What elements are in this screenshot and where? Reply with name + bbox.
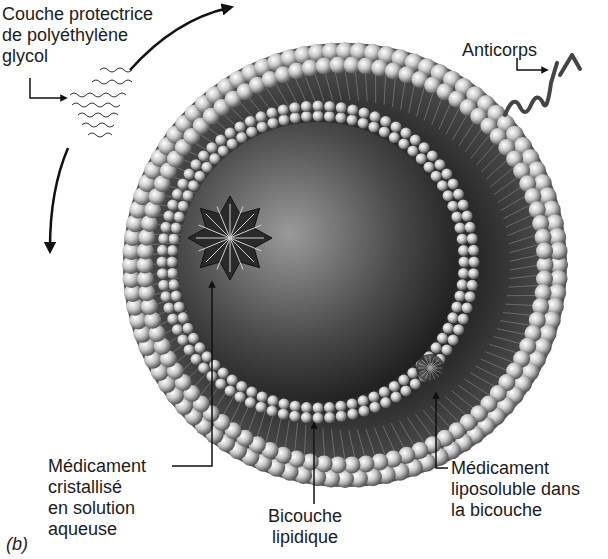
crystal-drug-icon xyxy=(188,196,272,280)
peg-chains-icon xyxy=(70,68,132,137)
label-antibody: Anticorps xyxy=(462,40,537,61)
curved-arrow-left xyxy=(50,148,68,248)
liposoluble-drug-icon xyxy=(416,354,444,382)
label-peg-coating: Couche protectricede polyéthylèneglycol xyxy=(2,4,153,67)
label-bilayer: Bicouchelipidique xyxy=(268,506,342,548)
liposome-diagram: Couche protectricede polyéthylèneglycol … xyxy=(0,0,608,559)
panel-label: (b) xyxy=(6,534,28,555)
label-crystal-drug: Médicamentcristalliséen solutionaqueuse xyxy=(48,456,146,540)
peg-pointer-arrow xyxy=(30,78,64,98)
label-liposoluble-drug: Médicamentliposoluble dansla bicouche xyxy=(451,458,580,521)
